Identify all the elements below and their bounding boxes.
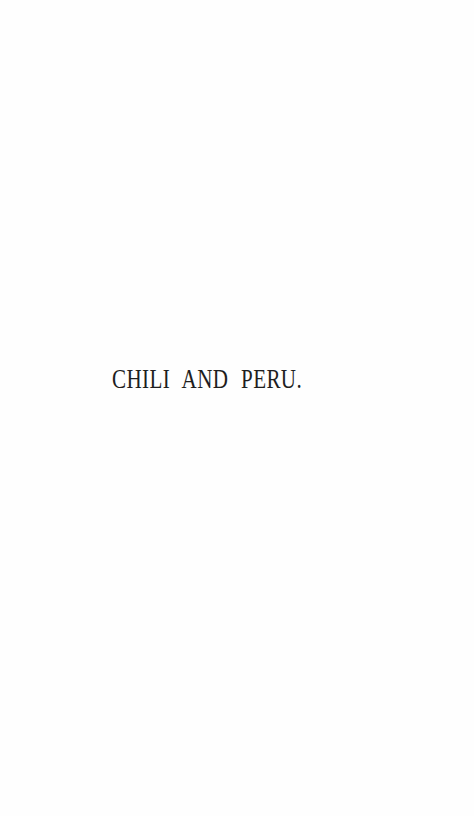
page-title: CHILI AND PERU. [112,364,302,394]
document-page: CHILI AND PERU. [0,0,474,816]
